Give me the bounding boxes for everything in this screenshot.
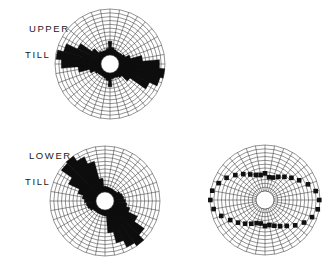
rose-diagram-figure: UPPER TILL LOWER TILL bbox=[0, 0, 327, 268]
rose-diagram-dotted bbox=[0, 0, 327, 268]
